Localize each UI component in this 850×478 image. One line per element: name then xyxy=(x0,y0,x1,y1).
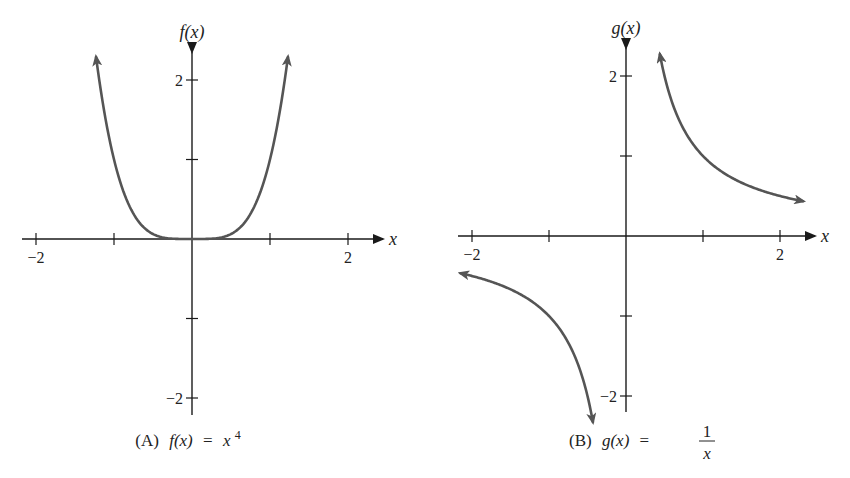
y-tick-label: 2 xyxy=(609,68,617,85)
caption-b-main: (B) g(x) = xyxy=(569,431,649,450)
caption-b-lhs: g(x) xyxy=(602,431,630,450)
curve-g-positive-branch xyxy=(660,54,803,201)
y-axis: 2−2 f(x) xyxy=(166,22,205,415)
caption-b: (B) g(x) = 1 x xyxy=(569,422,715,463)
caption-b-prefix: (B) xyxy=(569,431,592,450)
caption-b-equals: = xyxy=(640,431,650,450)
caption-a-equals: = xyxy=(203,431,213,450)
y-axis-title: g(x) xyxy=(612,18,641,39)
y-axis-title: f(x) xyxy=(180,22,205,43)
x-axis-tick-labels: −22 xyxy=(27,249,352,266)
chart-panel-b: −22 x 2−2 g(x) (B) g(x) = 1 x xyxy=(458,18,829,463)
caption-a-lhs: f(x) xyxy=(169,431,193,450)
x-axis-title: x xyxy=(820,226,829,246)
x-axis-title: x xyxy=(388,229,397,249)
y-axis: 2−2 g(x) xyxy=(600,18,641,412)
x-axis: −22 x xyxy=(458,226,829,263)
caption-b-numerator: 1 xyxy=(703,422,712,441)
curve-g-negative-branch xyxy=(460,273,592,422)
x-tick-label: −2 xyxy=(463,246,480,263)
caption-a-exponent: 4 xyxy=(235,428,241,442)
x-axis: −22 x xyxy=(22,229,397,266)
x-axis-tick-labels: −22 xyxy=(463,246,784,263)
caption-a: (A) f(x) = x 4 xyxy=(135,428,240,450)
x-tick-label: 2 xyxy=(776,246,784,263)
caption-b-denominator: x xyxy=(702,444,711,463)
caption-a-base: x xyxy=(222,431,231,450)
caption-a-prefix: (A) xyxy=(135,431,159,450)
chart-panel-a: −22 x 2−2 f(x) (A) f(x) = x 4 xyxy=(22,22,397,450)
x-tick-label: 2 xyxy=(344,249,352,266)
y-tick-label: −2 xyxy=(600,388,617,405)
y-tick-label: −2 xyxy=(166,390,183,407)
y-tick-label: 2 xyxy=(175,72,183,89)
figure-canvas: −22 x 2−2 f(x) (A) f(x) = x 4 −22 x 2 xyxy=(0,0,850,478)
x-tick-label: −2 xyxy=(27,249,44,266)
